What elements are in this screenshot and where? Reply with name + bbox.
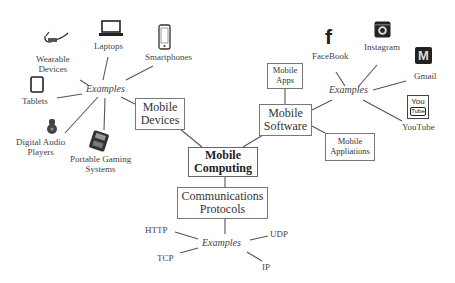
youtube-label: YouTube [402,122,435,132]
central-node-line2: Computing [194,162,252,175]
protocols-examples-label: Examples [202,237,241,248]
laptop-icon [98,19,124,37]
udp-label: UDP [270,229,288,239]
instagram-label: Instagram [364,42,400,52]
mobile-apps-node: Mobile Apps [267,63,303,89]
gmail-label: Gmail [414,71,437,81]
tcp-label: TCP [157,253,174,263]
laptops-label: Laptops [94,41,123,51]
tablet-icon [30,76,44,93]
facebook-icon: f [325,26,332,47]
facebook-label: FaceBook [312,51,349,61]
smartphone-icon [158,24,171,50]
instagram-icon [374,21,391,38]
mobile-software-line2: Software [264,120,307,133]
gmail-icon: M [415,47,432,64]
mobile-devices-line2: Devices [141,114,180,127]
central-node-mobile-computing: Mobile Computing [188,147,258,177]
mobile-devices-line1: Mobile [143,101,178,114]
smart-glasses-icon [42,28,72,46]
wearable-devices-label: Wearable Devices [36,54,70,75]
audio-player-icon [45,119,59,135]
mobile-devices-node: Mobile Devices [135,98,185,130]
devices-examples-label: Examples [86,83,125,94]
software-examples-label: Examples [329,84,368,95]
http-label: HTTP [145,225,168,235]
mobile-software-node: Mobile Software [259,104,312,136]
digital-audio-players-label: Digital Audio Players [16,137,65,158]
smartphones-label: Smartphones [145,52,192,62]
portable-gaming-systems-label: Portable Gaming Systems [70,154,131,175]
communications-protocols-node: Communications Protocols [177,187,268,219]
mobile-software-line1: Mobile [268,107,303,120]
gaming-console-icon [88,130,110,152]
central-node-line1: Mobile [205,149,241,162]
mobile-applications-node: Mobile Appliations [325,133,375,161]
mobile-computing-diagram: Mobile Computing Mobile Devices Examples… [0,0,455,283]
ip-label: IP [262,262,270,272]
tablets-label: Tablets [22,96,48,106]
youtube-icon: You Tube [407,95,429,119]
